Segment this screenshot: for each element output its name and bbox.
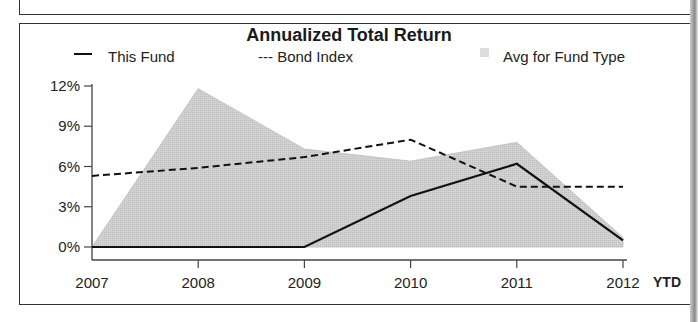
plot-area: 0%3%6%9%12%200720082009201020112012YTD (0, 0, 698, 322)
x-tick-label: 2007 (75, 274, 108, 291)
y-tick-label: 6% (58, 158, 80, 175)
y-tick-label: 3% (58, 198, 80, 215)
y-tick-label: 0% (58, 238, 80, 255)
x-tick-label: 2012 (606, 274, 639, 291)
x-tick-label: 2010 (394, 274, 427, 291)
avg-fund-type-area (92, 89, 623, 247)
x-tick-label: 2011 (501, 274, 533, 291)
y-tick-label: 12% (50, 77, 80, 94)
avg-fund-type-area-shape (92, 89, 623, 247)
ytd-label: YTD (653, 274, 681, 290)
y-tick-label: 9% (58, 117, 80, 134)
x-tick-label: 2008 (182, 274, 215, 291)
x-tick-label: 2009 (288, 274, 321, 291)
